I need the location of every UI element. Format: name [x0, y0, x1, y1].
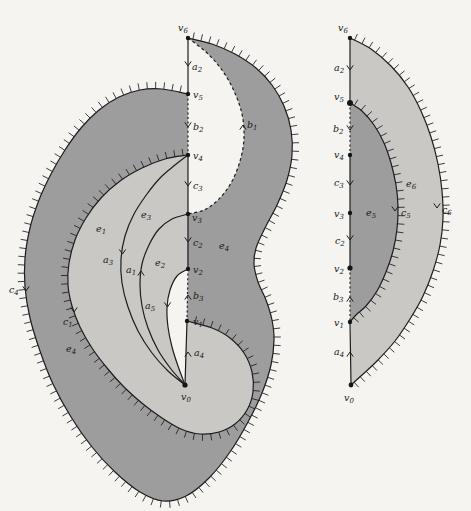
- vertex-v0-dot-right: [349, 383, 354, 388]
- vertex-v2-dot: [186, 267, 190, 271]
- vertex-v6-dot-right: [348, 36, 352, 40]
- vertex-v4-dot: [186, 153, 190, 157]
- vertex-v6-dot: [186, 36, 190, 40]
- vertex-v3-dot-right: [348, 211, 352, 215]
- surface-diagram-canvas: v6v5v4v3v2v1v0a2b2c3c2b3a4a3a1a5b1c1c4e1…: [0, 0, 471, 511]
- vertex-v5-dot-right: [347, 100, 353, 106]
- vertex-v4-dot-right: [348, 153, 352, 157]
- vertex-v5-dot: [186, 92, 190, 96]
- vertex-v1-dot-right: [348, 320, 352, 324]
- vertex-v1-dot: [185, 319, 189, 323]
- vertex-v0-dot: [182, 382, 187, 387]
- vertex-v2-dot-right: [347, 265, 352, 270]
- vertex-v3-dot: [186, 212, 190, 216]
